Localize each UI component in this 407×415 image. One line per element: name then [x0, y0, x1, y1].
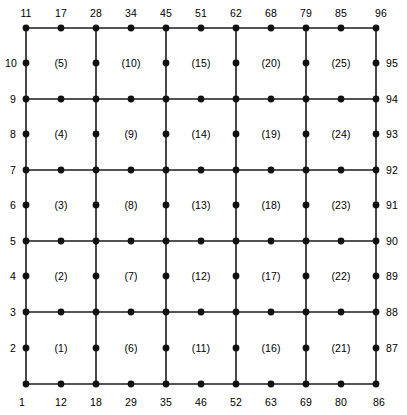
- node-label-69: 69: [300, 397, 312, 408]
- element-label-12: (12): [191, 271, 210, 282]
- midside-node-vertical-4: [303, 60, 310, 67]
- corner-node-12: [23, 167, 30, 174]
- midside-node-horizontal-3: [268, 25, 275, 32]
- midside-node-vertical-10: [303, 131, 310, 138]
- node-label-63: 63: [265, 397, 277, 408]
- element-label-6: (6): [124, 343, 137, 354]
- node-label-51: 51: [195, 8, 207, 19]
- midside-node-horizontal-6: [128, 96, 135, 103]
- element-label-21: (21): [331, 343, 350, 354]
- midside-node-vertical-14: [163, 202, 170, 209]
- corner-node-1: [93, 25, 100, 32]
- midside-node-horizontal-5: [58, 96, 65, 103]
- midside-node-horizontal-28: [268, 381, 275, 388]
- element-label-19: (19): [261, 129, 280, 140]
- element-label-4: (4): [54, 129, 67, 140]
- midside-node-horizontal-8: [268, 96, 275, 103]
- midside-node-vertical-0: [23, 60, 30, 67]
- midside-node-vertical-28: [303, 345, 310, 352]
- node-label-9: 9: [10, 94, 16, 105]
- element-label-5: (5): [54, 58, 67, 69]
- midside-node-vertical-25: [93, 345, 100, 352]
- midside-node-vertical-22: [303, 273, 310, 280]
- corner-node-22: [303, 238, 310, 245]
- node-label-11: 11: [20, 8, 31, 19]
- midside-node-horizontal-1: [128, 25, 135, 32]
- corner-node-14: [163, 167, 170, 174]
- corner-node-13: [93, 167, 100, 174]
- midside-node-vertical-5: [373, 60, 380, 67]
- midside-node-vertical-9: [233, 131, 240, 138]
- node-label-85: 85: [335, 8, 347, 19]
- midside-node-vertical-24: [23, 345, 30, 352]
- midside-node-horizontal-24: [338, 309, 345, 316]
- midside-node-vertical-2: [163, 60, 170, 67]
- corner-node-5: [373, 25, 380, 32]
- element-label-9: (9): [124, 129, 137, 140]
- corner-node-33: [233, 381, 240, 388]
- corner-node-31: [93, 381, 100, 388]
- corner-node-21: [233, 238, 240, 245]
- node-label-4: 4: [10, 271, 16, 282]
- node-label-96: 96: [375, 8, 387, 19]
- node-label-45: 45: [160, 8, 172, 19]
- corner-node-23: [373, 238, 380, 245]
- corner-node-8: [163, 96, 170, 103]
- corner-node-19: [93, 238, 100, 245]
- midside-node-horizontal-19: [338, 238, 345, 245]
- midside-node-vertical-18: [23, 273, 30, 280]
- midside-node-horizontal-2: [198, 25, 205, 32]
- node-label-10: 10: [5, 58, 17, 69]
- midside-node-horizontal-20: [58, 309, 65, 316]
- midside-node-horizontal-18: [268, 238, 275, 245]
- midside-node-horizontal-29: [338, 381, 345, 388]
- corner-node-0: [23, 25, 30, 32]
- midside-node-vertical-1: [93, 60, 100, 67]
- corner-node-25: [93, 309, 100, 316]
- node-label-29: 29: [125, 397, 137, 408]
- midside-node-horizontal-4: [338, 25, 345, 32]
- node-label-79: 79: [300, 8, 312, 19]
- element-label-10: (10): [121, 58, 140, 69]
- corner-node-26: [163, 309, 170, 316]
- node-label-68: 68: [265, 8, 277, 19]
- midside-node-horizontal-13: [268, 167, 275, 174]
- midside-node-horizontal-0: [58, 25, 65, 32]
- midside-node-vertical-11: [373, 131, 380, 138]
- element-label-18: (18): [261, 200, 280, 211]
- midside-node-vertical-13: [93, 202, 100, 209]
- midside-node-vertical-29: [373, 345, 380, 352]
- corner-node-34: [303, 381, 310, 388]
- midside-node-vertical-8: [163, 131, 170, 138]
- node-label-87: 87: [386, 343, 398, 354]
- node-label-52: 52: [230, 397, 242, 408]
- node-label-28: 28: [90, 8, 102, 19]
- node-label-46: 46: [195, 397, 207, 408]
- node-label-90: 90: [386, 236, 398, 247]
- corner-node-30: [23, 381, 30, 388]
- node-label-95: 95: [386, 58, 398, 69]
- element-label-14: (14): [191, 129, 210, 140]
- midside-node-vertical-20: [163, 273, 170, 280]
- corner-node-2: [163, 25, 170, 32]
- element-label-3: (3): [54, 200, 67, 211]
- element-label-23: (23): [331, 200, 350, 211]
- corner-node-17: [373, 167, 380, 174]
- node-label-80: 80: [335, 397, 347, 408]
- corner-node-6: [23, 96, 30, 103]
- element-label-7: (7): [124, 271, 137, 282]
- corner-node-35: [373, 381, 380, 388]
- midside-node-horizontal-11: [128, 167, 135, 174]
- node-label-35: 35: [160, 397, 172, 408]
- midside-node-horizontal-9: [338, 96, 345, 103]
- element-label-17: (17): [261, 271, 280, 282]
- midside-node-horizontal-16: [128, 238, 135, 245]
- node-label-89: 89: [386, 271, 398, 282]
- corner-node-27: [233, 309, 240, 316]
- midside-node-horizontal-22: [198, 309, 205, 316]
- midside-node-vertical-27: [233, 345, 240, 352]
- corner-node-32: [163, 381, 170, 388]
- node-label-12: 12: [55, 397, 67, 408]
- node-label-34: 34: [125, 8, 137, 19]
- node-label-6: 6: [10, 200, 16, 211]
